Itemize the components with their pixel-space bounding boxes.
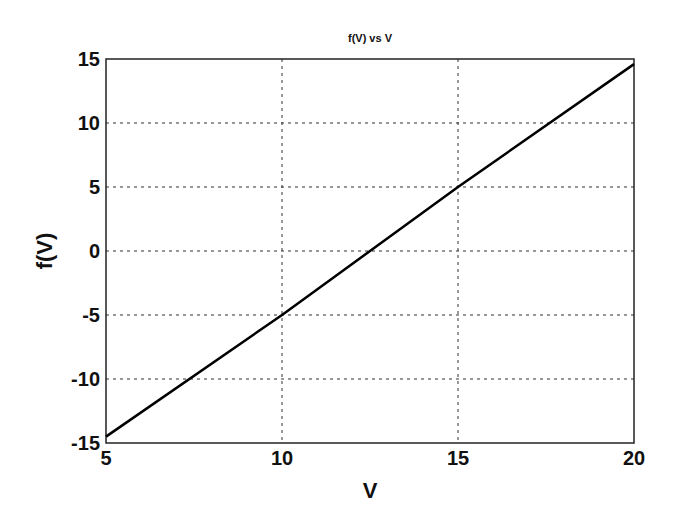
x-tick-label: 5 (100, 447, 111, 469)
y-tick-labels: -15-10-5051015 (71, 48, 100, 454)
y-tick-label: -15 (71, 432, 100, 454)
x-tick-labels: 5101520 (100, 447, 645, 469)
y-tick-label: 10 (78, 112, 100, 134)
chart-title: f(V) vs V (348, 32, 393, 44)
x-tick-label: 10 (271, 447, 293, 469)
series-line (106, 64, 634, 436)
x-tick-label: 15 (447, 447, 469, 469)
y-axis-label: f(V) (32, 233, 57, 270)
y-tick-label: -10 (71, 368, 100, 390)
y-tick-label: 15 (78, 48, 100, 70)
x-tick-label: 20 (623, 447, 645, 469)
y-tick-label: 5 (89, 176, 100, 198)
y-tick-label: -5 (82, 304, 100, 326)
chart: f(V) vs V 5101520 -15-10-5051015 V f(V) (0, 0, 681, 515)
x-axis-label: V (363, 478, 378, 503)
y-tick-label: 0 (89, 240, 100, 262)
